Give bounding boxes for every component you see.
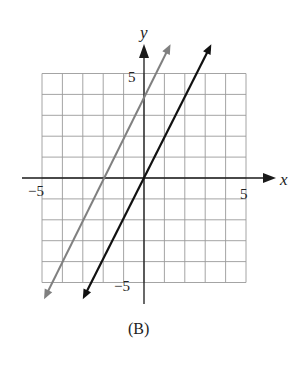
y-tick-label-neg5: −5 [114,278,130,294]
black-line [86,50,208,292]
x-axis-label: x [279,170,288,189]
gray-line [47,51,167,293]
figure-caption: (B) [128,320,149,338]
y-tick-label-5: 5 [128,69,136,85]
x-axis-arrow-icon [263,173,276,183]
chart: x y −5 5 5 −5 (B) [0,0,297,370]
coordinate-plane: x y −5 5 5 −5 (B) [0,0,297,370]
x-tick-label-neg5: −5 [28,183,44,199]
y-axis-label: y [138,23,148,42]
y-axis-arrow-icon [139,44,149,58]
x-tick-label-5: 5 [240,186,248,202]
